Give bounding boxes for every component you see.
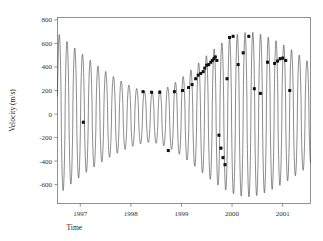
data-point-marker — [158, 91, 161, 94]
y-tick-label: 400 — [42, 63, 53, 71]
data-point-marker — [142, 90, 145, 93]
y-tick-label: 600 — [42, 40, 53, 48]
data-point-marker — [281, 57, 284, 60]
y-tick-label: 800 — [42, 16, 53, 24]
data-point-marker — [219, 147, 222, 150]
data-point-marker — [82, 121, 85, 124]
data-point-marker — [203, 67, 206, 70]
data-point-marker — [187, 86, 190, 89]
data-point-marker — [273, 62, 276, 65]
data-point-marker — [221, 156, 224, 159]
y-tick-label: 200 — [42, 87, 53, 95]
data-point-marker — [150, 91, 153, 94]
data-points-group — [82, 35, 291, 166]
data-point-marker — [253, 87, 256, 90]
x-tick-label: 1998 — [124, 210, 139, 218]
data-point-marker — [215, 59, 218, 62]
x-axis-label: Time — [67, 223, 83, 232]
plot-frame — [58, 18, 311, 204]
data-point-marker — [259, 92, 262, 95]
y-tick-label: -200 — [39, 134, 52, 142]
data-point-marker — [217, 134, 220, 137]
x-tick-label: 1997 — [73, 210, 88, 218]
data-point-marker — [223, 163, 226, 166]
data-point-marker — [173, 90, 176, 93]
data-point-marker — [181, 89, 184, 92]
data-point-marker — [288, 89, 291, 92]
data-point-marker — [194, 77, 197, 80]
x-tick-label: 1999 — [174, 210, 189, 218]
data-point-marker — [232, 35, 235, 38]
y-tick-label: -600 — [39, 181, 52, 189]
radial-velocity-chart: 8006004002000-200-400-600199719981999200… — [0, 0, 323, 241]
y-axis-label: Velocity (m/s) — [8, 89, 17, 132]
data-point-marker — [226, 77, 229, 80]
x-tick-label: 2000 — [225, 210, 240, 218]
data-point-marker — [242, 51, 245, 54]
data-point-marker — [167, 149, 170, 152]
chart-svg: 8006004002000-200-400-600199719981999200… — [0, 0, 323, 241]
x-tick-label: 2001 — [276, 210, 291, 218]
data-point-marker — [266, 61, 269, 64]
data-point-marker — [202, 70, 205, 73]
y-tick-label: -400 — [39, 158, 52, 166]
y-tick-label: 0 — [49, 111, 53, 119]
data-point-marker — [237, 63, 240, 66]
model-curve — [58, 32, 311, 197]
data-point-marker — [284, 59, 287, 62]
data-point-marker — [214, 55, 217, 58]
data-point-marker — [191, 83, 194, 86]
data-point-marker — [228, 36, 231, 39]
data-point-marker — [247, 35, 250, 38]
